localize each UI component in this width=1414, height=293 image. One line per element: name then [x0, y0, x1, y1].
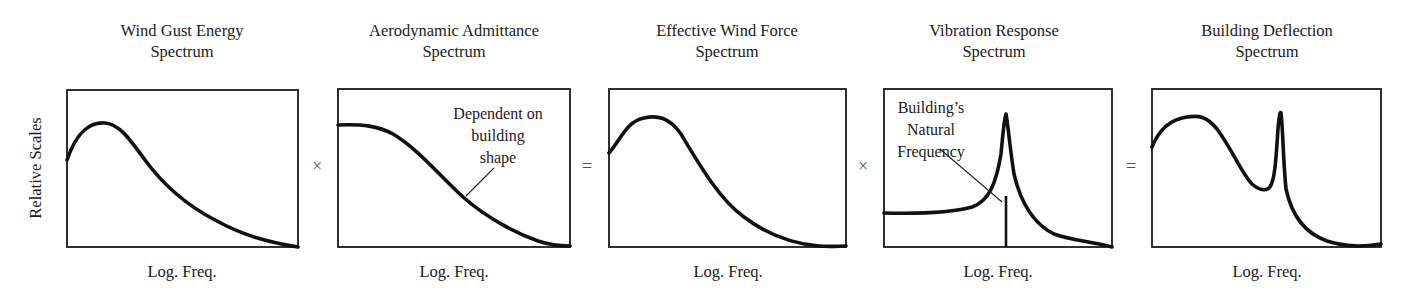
panel-2-xlabel: Log. Freq.: [354, 262, 554, 282]
multiply-operator-1: ×: [307, 156, 327, 177]
panel-4-title: Vibration Response Spectrum: [864, 20, 1124, 62]
panel-3-xlabel: Log. Freq.: [628, 262, 828, 282]
panel-4-xlabel: Log. Freq.: [898, 262, 1098, 282]
panel-5-xlabel: Log. Freq.: [1167, 262, 1367, 282]
multiply-operator-2: ×: [853, 156, 873, 177]
panel-2-plot: Dependent on building shape: [338, 89, 571, 248]
equals-operator-2: =: [1121, 156, 1141, 177]
equals-operator-1: =: [577, 156, 597, 177]
panel-5-plot: [1152, 89, 1382, 248]
panel-4-annotation-line2: Natural: [907, 121, 956, 138]
panel-1-title: Wind Gust Energy Spectrum: [52, 20, 312, 62]
panel-2-annotation-line2: building: [471, 127, 524, 145]
panel-4-annotation-line3: Frequency: [897, 143, 965, 161]
panel-4-annotation-line1: Building’s: [898, 99, 965, 117]
panel-1-xlabel: Log. Freq.: [82, 262, 282, 282]
y-axis-label: Relative Scales: [26, 117, 46, 218]
panel-5-title: Building Deflection Spectrum: [1137, 20, 1397, 62]
panel-2-annotation-line1: Dependent on: [453, 105, 542, 123]
panel-2-title: Aerodynamic Admittance Spectrum: [324, 20, 584, 62]
panel-1-plot: [67, 90, 299, 248]
panel-3-plot: [609, 89, 847, 248]
panel-4-plot: Building’s Natural Frequency: [884, 89, 1113, 248]
panel-2-annotation-line3: shape: [480, 149, 516, 167]
panel-3-title: Effective Wind Force Spectrum: [597, 20, 857, 62]
